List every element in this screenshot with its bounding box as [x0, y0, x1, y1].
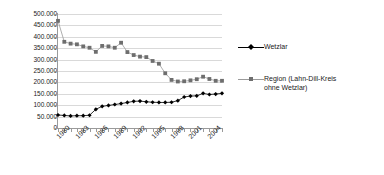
data-point	[138, 55, 142, 59]
data-point	[106, 103, 110, 107]
data-point	[220, 91, 224, 95]
data-point	[81, 114, 85, 118]
line-chart: 500.000450.000400.000350.000300.000250.0…	[0, 0, 384, 175]
data-point	[75, 42, 79, 46]
data-point	[201, 91, 205, 95]
square-icon	[248, 76, 254, 82]
data-point	[151, 59, 155, 63]
series-line	[58, 21, 222, 82]
y-axis-tick-label: 0	[11, 124, 57, 131]
data-point	[88, 46, 92, 50]
y-axis-tick-label: 200.000	[11, 78, 57, 85]
data-point	[144, 100, 148, 104]
data-point	[182, 79, 186, 83]
data-point	[107, 44, 111, 48]
data-point	[188, 94, 192, 98]
y-axis-tick-label: 350.000	[11, 44, 57, 51]
data-point	[69, 114, 73, 118]
data-point	[100, 104, 104, 108]
legend-label-region: Region (Lahn-Dill-Kreis ohne Wetzlar)	[264, 74, 336, 92]
data-point	[163, 100, 167, 104]
y-axis-tick-label: 450.000	[11, 21, 57, 28]
data-point	[119, 41, 123, 45]
x-axis-tick	[71, 129, 72, 132]
data-point	[169, 100, 173, 104]
data-point	[207, 92, 211, 96]
data-point	[220, 79, 224, 83]
data-point	[69, 42, 73, 46]
y-axis-tick-label: 500.000	[11, 10, 57, 17]
data-point	[75, 114, 79, 118]
data-point	[81, 44, 85, 48]
x-axis-tick	[222, 129, 223, 132]
data-point	[113, 46, 117, 50]
data-point	[182, 95, 186, 99]
data-point	[201, 75, 205, 79]
data-point	[119, 102, 123, 106]
data-point	[125, 100, 129, 104]
data-point	[214, 92, 218, 96]
data-point	[62, 113, 66, 117]
data-point	[138, 99, 142, 103]
legend-item-region[interactable]: Region (Lahn-Dill-Kreis ohne Wetzlar)	[238, 74, 384, 92]
data-point	[214, 79, 218, 83]
data-point	[195, 94, 199, 98]
y-axis-tick-label: 100.000	[11, 101, 57, 108]
legend-marker-diamond-icon	[238, 43, 264, 52]
data-point	[62, 40, 66, 44]
data-point	[56, 19, 60, 23]
series-region	[56, 19, 224, 83]
y-axis-tick-label: 150.000	[11, 90, 57, 97]
data-point	[132, 53, 136, 57]
data-point	[157, 62, 161, 66]
data-point	[132, 99, 136, 103]
diamond-icon	[248, 44, 254, 50]
x-axis-tick	[203, 129, 204, 132]
data-point	[157, 100, 161, 104]
data-point	[170, 78, 174, 82]
legend-label-wetzlar: Wetzlar	[264, 42, 288, 51]
y-axis-tick-label: 300.000	[11, 56, 57, 63]
x-axis-tick	[108, 129, 109, 132]
legend-item-wetzlar[interactable]: Wetzlar	[238, 42, 384, 52]
data-point	[176, 80, 180, 84]
data-point	[94, 50, 98, 54]
x-axis-tick	[127, 129, 128, 132]
y-axis-tick-label: 50.000	[11, 113, 57, 120]
data-point	[125, 50, 129, 54]
data-point	[113, 102, 117, 106]
data-point	[189, 78, 193, 82]
data-point	[100, 44, 104, 48]
data-point	[195, 77, 199, 81]
series-wetzlar	[56, 91, 224, 118]
data-point	[151, 100, 155, 104]
data-point	[207, 77, 211, 81]
x-axis-tick	[90, 129, 91, 132]
y-axis-tick-label: 250.000	[11, 67, 57, 74]
data-point	[144, 55, 148, 59]
chart-legend: Wetzlar Region (Lahn-Dill-Kreis ohne Wet…	[238, 42, 384, 114]
legend-marker-square-icon	[238, 75, 264, 84]
data-point	[163, 71, 167, 75]
y-axis-tick-label: 400.000	[11, 33, 57, 40]
data-series-layer	[58, 14, 222, 128]
data-point	[176, 99, 180, 103]
